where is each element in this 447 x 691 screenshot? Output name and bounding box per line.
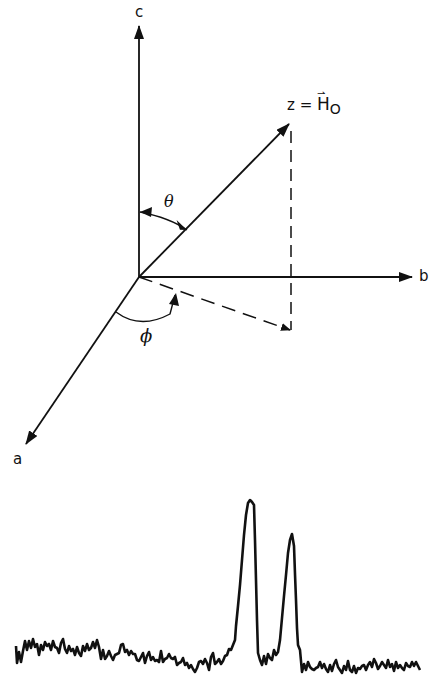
spectrum-trace <box>16 500 420 673</box>
a-axis-label: a <box>13 452 22 467</box>
b-axis-label: b <box>419 269 429 284</box>
projection-ab-plane <box>139 277 290 330</box>
c-axis-label: c <box>135 5 143 20</box>
z-h0-label: z = ⇀ HO <box>287 96 341 113</box>
phi-label: ϕ <box>140 327 152 345</box>
theta-label: θ <box>164 194 174 210</box>
z-prefix: z = <box>287 96 312 114</box>
vector-arrow-icon: ⇀ <box>317 89 325 99</box>
h-vector-symbol: ⇀ HO <box>317 96 341 113</box>
coordinate-diagram <box>0 0 447 691</box>
a-axis <box>26 277 139 444</box>
z-vector <box>139 124 289 277</box>
